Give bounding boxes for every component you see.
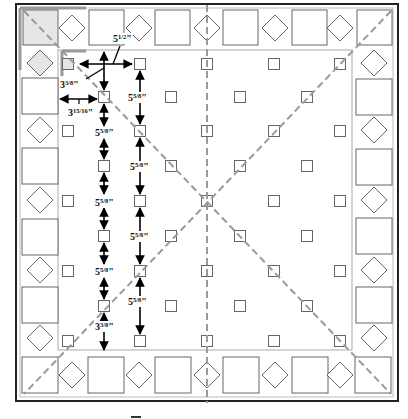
- quilt-layout-diagram: 51/2"33/8"315/16"55/8"55/8"55/8"55/8"55/…: [0, 0, 408, 419]
- small-square-block: [99, 161, 110, 172]
- small-square-block: [302, 92, 313, 103]
- small-square-block: [302, 161, 313, 172]
- small-square-block: [269, 336, 280, 347]
- border-square-left: [22, 219, 58, 255]
- small-square-block: [269, 126, 280, 137]
- border-square-top: [223, 10, 258, 45]
- border-square-right: [356, 218, 392, 254]
- small-square-block: [135, 336, 146, 347]
- small-square-block: [235, 92, 246, 103]
- small-square-block: [235, 301, 246, 312]
- border-square-top: [292, 10, 327, 45]
- small-square-block: [335, 266, 346, 277]
- small-square-block: [269, 196, 280, 207]
- small-square-block: [63, 126, 74, 137]
- small-square-block: [135, 266, 146, 277]
- small-square-block: [63, 266, 74, 277]
- small-square-block: [63, 196, 74, 207]
- small-square-block: [302, 231, 313, 242]
- border-square-left: [22, 148, 58, 184]
- small-square-block: [166, 92, 177, 103]
- border-square-bottom: [88, 357, 124, 393]
- small-square-block: [166, 301, 177, 312]
- border-square-top: [155, 10, 190, 45]
- small-square-block: [335, 126, 346, 137]
- border-square-bottom: [155, 357, 191, 393]
- small-square-block: [99, 231, 110, 242]
- border-square-left: [22, 78, 58, 114]
- small-square-block: [269, 59, 280, 70]
- small-square-block: [166, 161, 177, 172]
- border-square-right: [356, 79, 392, 115]
- border-square-bottom: [292, 357, 328, 393]
- border-square-bottom: [223, 357, 259, 393]
- border-square-right: [356, 287, 392, 323]
- small-square-block: [335, 196, 346, 207]
- small-square-block: [135, 196, 146, 207]
- border-square-bottom: [22, 357, 58, 393]
- small-square-block: [63, 336, 74, 347]
- border-square-left: [22, 287, 58, 323]
- small-square-block: [135, 59, 146, 70]
- border-square-right: [356, 149, 392, 185]
